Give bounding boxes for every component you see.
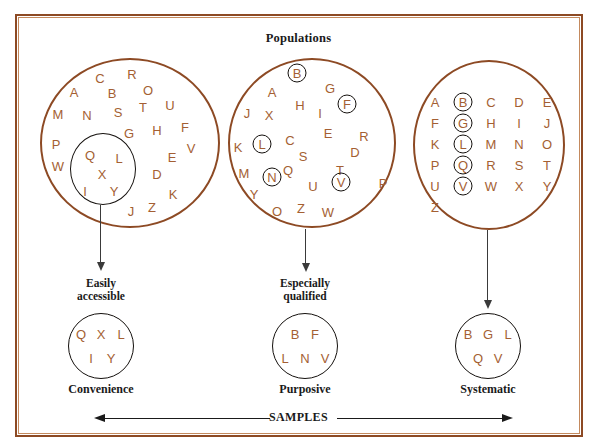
population-letter-V: V <box>459 180 468 193</box>
population-letter-E: E <box>543 96 552 109</box>
sample-letter-N: N <box>300 351 309 366</box>
population-letter-Y: Y <box>250 188 259 201</box>
sample-letter-F: F <box>311 327 319 342</box>
population-letter-U: U <box>165 99 174 112</box>
population-letter-S: S <box>299 150 308 163</box>
population-letter-S: S <box>114 106 123 119</box>
population-letter-J: J <box>244 107 251 120</box>
population-letter-C: C <box>285 134 294 147</box>
population-letter-D: D <box>152 168 161 181</box>
sample-letter-L: L <box>117 327 124 342</box>
population-letter-E: E <box>168 151 177 164</box>
population-letter-U: U <box>308 180 317 193</box>
population-letter-D: D <box>514 96 523 109</box>
samples-axis-right-line <box>337 418 502 419</box>
population-letter-K: K <box>234 141 243 154</box>
subset-letter-Y: Y <box>110 185 119 198</box>
sample-letter-B: B <box>291 327 300 342</box>
sample-letter-Y: Y <box>107 351 116 366</box>
population-letter-S: S <box>515 159 524 172</box>
population-letter-B: B <box>293 67 302 80</box>
arrow-head-systematic <box>484 300 492 309</box>
sample-letter-I: I <box>89 351 93 366</box>
population-letter-R: R <box>127 68 136 81</box>
sample-letter-G: G <box>483 327 493 342</box>
samples-arrow-right <box>502 414 513 422</box>
population-letter-G: G <box>458 117 468 130</box>
sample-letter-B: B <box>464 327 473 342</box>
population-letter-M: M <box>53 108 64 121</box>
population-letter-P: P <box>52 138 61 151</box>
arrow-line-systematic <box>487 230 488 303</box>
population-letter-J: J <box>128 205 135 218</box>
population-letter-B: B <box>108 87 117 100</box>
sample-letter-Q: Q <box>76 327 86 342</box>
population-letter-I: I <box>318 107 322 120</box>
sample-circle-convenience <box>68 313 134 379</box>
stage-label-purposive: Especially qualified <box>254 277 356 303</box>
sample-letter-Q: Q <box>473 351 483 366</box>
sample-caption-systematic: Systematic <box>428 383 548 396</box>
stage-label-convenience: Easily accessible <box>50 277 152 303</box>
population-letter-K: K <box>431 138 440 151</box>
population-letter-N: N <box>514 138 523 151</box>
population-letter-P: P <box>379 177 388 190</box>
population-letter-A: A <box>431 96 440 109</box>
subset-letter-X: X <box>98 168 107 181</box>
population-letter-O: O <box>143 84 153 97</box>
population-letter-A: A <box>70 86 79 99</box>
population-letter-K: K <box>169 188 178 201</box>
population-letter-Q: Q <box>283 164 293 177</box>
subset-letter-L: L <box>115 152 122 165</box>
arrow-line-purposive <box>305 229 306 266</box>
population-letter-Y: Y <box>543 180 552 193</box>
population-letter-D: D <box>350 146 359 159</box>
population-letter-A: A <box>268 86 277 99</box>
population-letter-V: V <box>187 142 196 155</box>
arrow-line-convenience <box>100 205 101 265</box>
population-letter-Z: Z <box>431 201 439 214</box>
sample-letter-V: V <box>321 351 330 366</box>
population-letter-W: W <box>322 206 334 219</box>
population-letter-C: C <box>95 72 104 85</box>
population-letter-W: W <box>485 180 497 193</box>
sample-letter-V: V <box>494 351 503 366</box>
population-letter-R: R <box>486 159 495 172</box>
population-letter-I: I <box>517 117 521 130</box>
population-letter-P: P <box>431 159 440 172</box>
population-letter-M: M <box>239 167 250 180</box>
population-letter-T: T <box>543 159 551 172</box>
population-letter-F: F <box>431 117 439 130</box>
population-letter-M: M <box>486 138 497 151</box>
population-letter-J: J <box>544 117 551 130</box>
population-letter-R: R <box>359 130 368 143</box>
population-letter-X: X <box>265 109 274 122</box>
sample-letter-X: X <box>97 327 106 342</box>
figure-canvas: Populations CRABOUMNSTGHFPVWEDKJZQLXIY E… <box>0 0 597 448</box>
sample-caption-convenience: Convenience <box>41 383 161 396</box>
population-letter-L: L <box>459 138 466 151</box>
population-letter-Z: Z <box>148 201 156 214</box>
population-letter-Q: Q <box>458 159 468 172</box>
population-letter-U: U <box>430 180 439 193</box>
population-letter-C: C <box>486 96 495 109</box>
population-letter-O: O <box>272 205 282 218</box>
population-letter-F: F <box>181 121 189 134</box>
population-letter-E: E <box>324 127 333 140</box>
subset-letter-Q: Q <box>85 149 95 162</box>
population-letter-H: H <box>295 99 304 112</box>
population-letter-V: V <box>337 176 346 189</box>
sample-letter-L: L <box>281 351 288 366</box>
arrow-head-purposive <box>302 263 310 272</box>
population-letter-N: N <box>82 109 91 122</box>
arrow-head-convenience <box>97 262 105 271</box>
sample-circle-systematic <box>455 313 521 379</box>
sample-circle-purposive <box>272 313 338 379</box>
population-letter-F: F <box>343 98 351 111</box>
sample-caption-purposive: Purposive <box>245 383 365 396</box>
population-letter-O: O <box>542 138 552 151</box>
population-letter-H: H <box>486 117 495 130</box>
population-letter-L: L <box>258 138 265 151</box>
population-letter-B: B <box>459 96 468 109</box>
population-letter-T: T <box>139 101 147 114</box>
